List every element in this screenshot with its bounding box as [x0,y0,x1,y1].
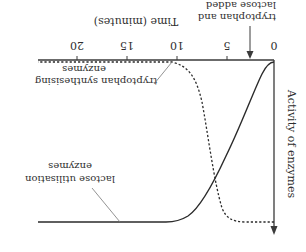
x-tick-label-0: 0 [271,39,278,52]
lactose-label-line-2: enzymes [48,161,92,172]
chart-svg: 0 5 10 15 20 Time (minutes) Activity of … [0,0,306,252]
lactose-label-line-1: lactose utilisation [25,174,115,185]
x-tick-label-5: 5 [224,39,231,52]
y-axis-arrow-icon [271,226,278,235]
y-axis-title: Activity of enzymes [285,89,298,199]
tryptophan-label-line-1: tryptophan synthesising [34,76,157,87]
annotation-line-2: lactose added [205,0,276,11]
x-axis-title: Time (minutes) [94,15,179,28]
tryptophan-leader-line [154,62,172,84]
annotation-line-1: tryptophan and [197,12,276,23]
x-tick-label-15: 15 [120,39,134,52]
tryptophan-label-line-2: enzymes [62,64,106,75]
lactose-leader-line [92,188,120,222]
down-arrow-icon [247,51,254,59]
x-tick-label-10: 10 [170,39,184,52]
enzyme-activity-chart: 0 5 10 15 20 Time (minutes) Activity of … [0,0,306,252]
x-tick-label-20: 20 [70,39,84,52]
